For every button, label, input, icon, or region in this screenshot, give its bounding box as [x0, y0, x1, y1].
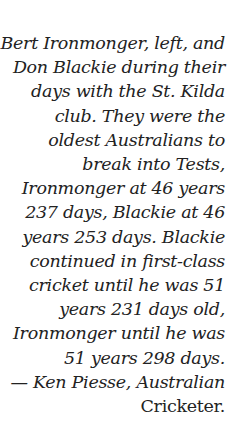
- caption-line: club. They were the: [0, 104, 225, 128]
- caption-line: 51 years 298 days.: [0, 346, 225, 370]
- caption-line: Don Blackie during their: [0, 55, 225, 79]
- photo-caption: Bert Ironmonger, left, and Don Blackie d…: [0, 31, 225, 418]
- caption-line: break into Tests,: [0, 152, 225, 176]
- caption-line: Bert Ironmonger, left, and: [0, 31, 225, 55]
- caption-line: cricket until he was 51: [0, 273, 225, 297]
- caption-line: years 253 days. Blackie: [0, 225, 225, 249]
- caption-line: years 231 days old,: [0, 297, 225, 321]
- caption-line: 237 days, Blackie at 46: [0, 200, 225, 224]
- caption-line: oldest Australians to: [0, 128, 225, 152]
- caption-line: Ironmonger at 46 years: [0, 176, 225, 200]
- caption-line: continued in first-class: [0, 249, 225, 273]
- caption-attribution: — Ken Piesse, Australian: [0, 370, 225, 394]
- caption-source-publication: Cricketer.: [0, 394, 225, 418]
- caption-line: Ironmonger until he was: [0, 321, 225, 345]
- caption-line: days with the St. Kilda: [0, 79, 225, 103]
